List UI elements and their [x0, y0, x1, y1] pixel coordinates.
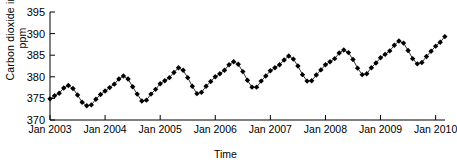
x-tick-label: Jan 2006 — [194, 123, 237, 135]
x-axis-label: Time — [0, 148, 451, 160]
co2-series-line — [50, 37, 445, 106]
x-tick-label: Jan 2010 — [414, 123, 457, 135]
x-tick-label: Jan 2003 — [28, 123, 71, 135]
x-tick-label: Jan 2005 — [139, 123, 182, 135]
x-tick-label: Jan 2004 — [83, 123, 126, 135]
axis-lines — [50, 12, 445, 120]
x-tick-label: Jan 2007 — [249, 123, 292, 135]
y-tick-marks — [50, 12, 55, 120]
co2-series-markers — [47, 34, 447, 109]
x-tick-label: Jan 2008 — [304, 123, 347, 135]
x-tick-label: Jan 2009 — [359, 123, 402, 135]
x-tick-marks — [50, 115, 436, 120]
